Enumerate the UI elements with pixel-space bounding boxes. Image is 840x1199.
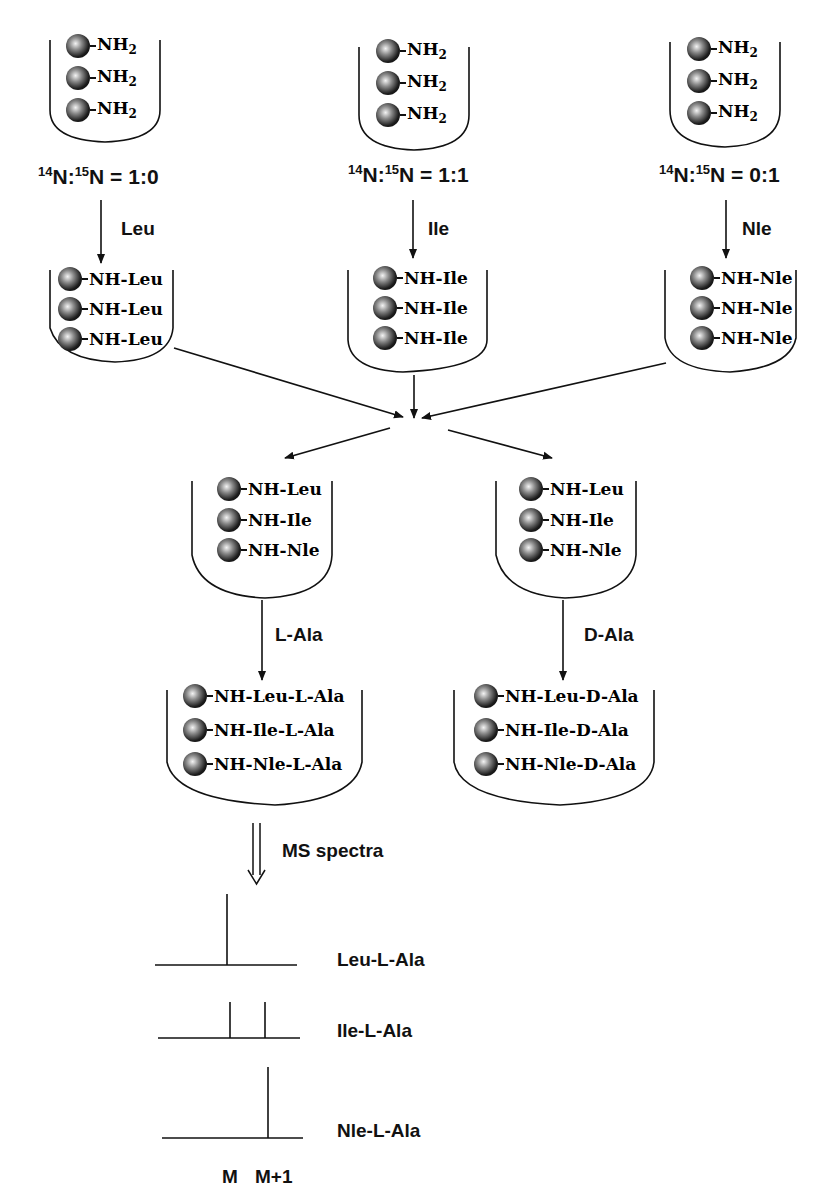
bead-icon	[373, 266, 397, 290]
reagent-label: Nle	[742, 218, 772, 240]
bead-icon	[519, 538, 543, 562]
resin-bead-row: NH2	[687, 100, 758, 126]
bead-icon	[474, 718, 498, 742]
resin-bead-row: NH-Nle	[690, 325, 792, 351]
bead-icon	[474, 752, 498, 776]
resin-bead-row: NH-Ile-D-Ala	[474, 717, 629, 743]
resin-bead-row: NH-Ile	[373, 295, 468, 321]
resin-bead-row: NH-Nle	[217, 537, 319, 563]
bead-icon	[66, 98, 90, 122]
reagent-label: D-Ala	[584, 624, 634, 646]
resin-bead-row: NH-Leu-L-Ala	[183, 683, 345, 709]
spectrum-label: Nle-L-Ala	[337, 1120, 420, 1142]
bead-icon	[687, 101, 711, 125]
resin-bead-row: NH-Leu	[58, 266, 163, 292]
resin-bead-row: NH-Nle-L-Ala	[183, 751, 342, 777]
spectrum-label: Leu-L-Ala	[337, 949, 425, 971]
axis-label-m: M	[222, 1166, 238, 1188]
resin-bead-row: NH2	[687, 68, 758, 94]
resin-bead-row: NH-Ile	[519, 507, 614, 533]
resin-bead-row: NH-Ile	[373, 325, 468, 351]
bead-icon	[183, 752, 207, 776]
resin-bead-row: NH2	[66, 33, 137, 59]
bead-icon	[217, 508, 241, 532]
isotope-ratio: 14N:15N = 0:1	[659, 163, 780, 187]
resin-bead-row: NH-Leu	[519, 476, 624, 502]
resin-bead-row: NH-Ile-L-Ala	[183, 717, 335, 743]
resin-bead-row: NH-Leu	[217, 476, 322, 502]
reagent-label: Leu	[121, 218, 155, 240]
bead-icon	[58, 267, 82, 291]
resin-bead-row: NH2	[687, 36, 758, 62]
resin-bead-row: NH-Nle	[690, 265, 792, 291]
bead-icon	[66, 34, 90, 58]
bead-icon	[217, 538, 241, 562]
resin-bead-row: NH2	[376, 70, 447, 96]
bead-icon	[217, 477, 241, 501]
resin-bead-row: NH-Nle	[690, 295, 792, 321]
bead-icon	[690, 326, 714, 350]
resin-bead-row: NH-Leu	[58, 296, 163, 322]
axis-label-m-plus-1: M+1	[255, 1166, 293, 1188]
bead-icon	[373, 326, 397, 350]
bead-icon	[519, 508, 543, 532]
bead-icon	[376, 71, 400, 95]
bead-icon	[183, 684, 207, 708]
bead-icon	[376, 39, 400, 63]
bead-icon	[687, 69, 711, 93]
resin-bead-row: NH2	[66, 97, 137, 123]
ms-double-arrow	[248, 823, 265, 884]
resin-bead-row: NH-Nle	[519, 537, 621, 563]
reagent-label: Ile	[428, 218, 449, 240]
spectrum-label: Ile-L-Ala	[337, 1020, 412, 1042]
resin-bead-row: NH-Leu	[58, 326, 163, 352]
resin-bead-row: NH2	[376, 38, 447, 64]
ms-arrow-label: MS spectra	[282, 840, 383, 862]
bead-icon	[66, 66, 90, 90]
resin-bead-row: NH-Ile	[373, 265, 468, 291]
bead-icon	[519, 477, 543, 501]
bead-icon	[183, 718, 207, 742]
isotope-ratio: 14N:15N = 1:1	[348, 163, 469, 187]
bead-icon	[474, 684, 498, 708]
reagent-label: L-Ala	[275, 624, 323, 646]
isotope-ratio: 14N:15N = 1:0	[38, 165, 159, 189]
resin-bead-row: NH-Ile	[217, 507, 312, 533]
bead-icon	[687, 37, 711, 61]
bead-icon	[58, 297, 82, 321]
bead-icon	[58, 327, 82, 351]
resin-bead-row: NH-Nle-D-Ala	[474, 751, 636, 777]
ms-spectra	[155, 894, 303, 1138]
bead-icon	[690, 266, 714, 290]
bead-icon	[376, 103, 400, 127]
resin-bead-row: NH-Leu-D-Ala	[474, 683, 639, 709]
resin-bead-row: NH2	[376, 102, 447, 128]
bead-icon	[690, 296, 714, 320]
resin-bead-row: NH2	[66, 65, 137, 91]
bead-icon	[373, 296, 397, 320]
